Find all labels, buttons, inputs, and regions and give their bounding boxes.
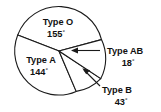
- type-ab-label-text: Type AB: [107, 46, 144, 56]
- pie-label-type-a-text: Type A: [26, 55, 56, 65]
- type-b-label-value: 43°: [115, 96, 128, 107]
- type-ab-label-value: 18°: [122, 57, 135, 68]
- type-b-label-text: Type B: [102, 85, 132, 95]
- type-ab-degree-symbol: °: [132, 57, 135, 64]
- pie-label-type-o-value-number: 155: [47, 29, 62, 39]
- pie-label-type-o-text: Type O: [43, 17, 73, 27]
- type-ab-value-number: 18: [122, 58, 132, 68]
- type-b-degree-symbol: °: [125, 96, 128, 103]
- type-b-value-number: 43: [115, 97, 125, 107]
- pie-chart-figure: Type O 155° Type A 144° Type AB 18°: [0, 0, 161, 112]
- pie-label-type-a-value-number: 144: [30, 67, 46, 77]
- pie-chart-svg: Type O 155° Type A 144° Type AB 18°: [0, 0, 161, 112]
